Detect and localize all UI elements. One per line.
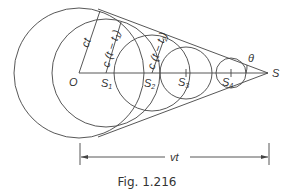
label-s2: S2 — [144, 77, 155, 90]
arrowhead-right — [261, 155, 268, 159]
label-s3: S3 — [178, 76, 189, 89]
arrowhead-left — [81, 155, 88, 159]
label-angle-theta: θ — [248, 52, 254, 64]
label-origin: O — [69, 76, 78, 88]
label-s1: S1 — [101, 77, 112, 90]
figure-caption: Fig. 1.216 — [118, 175, 177, 189]
label-s4: S4 — [222, 76, 233, 89]
label-radius-s1: c (t − t1) — [99, 28, 123, 69]
label-radius-s2: c (t − t2) — [145, 30, 170, 71]
cone-upper-tangent — [98, 9, 268, 73]
label-source: S — [272, 67, 280, 79]
label-distance-vt: vt — [170, 151, 180, 163]
mach-cone-diagram: O S1 S2 S3 S4 S θ ct c (t − t1) c (t − t… — [0, 0, 294, 194]
angle-arc — [246, 65, 247, 73]
